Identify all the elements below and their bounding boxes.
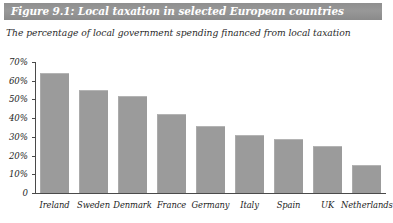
x-axis-category-label: Netherlands (341, 200, 392, 210)
y-axis-tick-label: 50% (0, 94, 28, 104)
bar (79, 90, 108, 193)
y-axis-tick (32, 81, 35, 82)
y-axis-tick-label: 70% (0, 57, 28, 67)
bar (313, 146, 342, 193)
bar (352, 165, 381, 193)
y-axis-tick (32, 62, 35, 63)
y-axis-line (35, 62, 36, 194)
bar (196, 126, 225, 193)
y-axis-tick-label: 30% (0, 132, 28, 142)
bar (118, 96, 147, 193)
bar (274, 139, 303, 193)
x-axis-line (35, 193, 386, 194)
y-axis-tick-label: 60% (0, 76, 28, 86)
y-axis-tick (32, 156, 35, 157)
y-axis-tick (32, 174, 35, 175)
bar (40, 73, 69, 193)
y-axis-tick-label: 20% (0, 151, 28, 161)
y-axis-tick-label: 40% (0, 113, 28, 123)
y-axis-tick (32, 118, 35, 119)
bar (235, 135, 264, 193)
y-axis-tick-label: 10% (0, 169, 28, 179)
bar (157, 114, 186, 193)
y-axis-tick-label: 0 (0, 188, 28, 198)
y-axis-tick (32, 99, 35, 100)
y-axis-tick (32, 137, 35, 138)
y-axis-tick (32, 193, 35, 194)
